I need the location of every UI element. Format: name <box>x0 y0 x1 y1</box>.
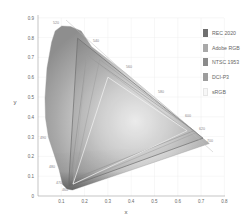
legend-item-dci-p3: DCI-P3 <box>203 70 240 85</box>
x-axis-label: x <box>125 209 128 215</box>
svg-text:470: 470 <box>56 181 62 185</box>
svg-text:0.5: 0.5 <box>151 199 158 204</box>
legend-item-adobe-rgb: Adobe RGB <box>203 41 240 56</box>
legend-item-srgb: sRGB <box>203 84 240 99</box>
svg-text:0.3: 0.3 <box>28 135 35 140</box>
legend: REC 2020 Adobe RGB NTSC 1953 DCI-P3 sRGB <box>203 26 240 99</box>
svg-text:0.7: 0.7 <box>198 199 205 204</box>
svg-text:0.3: 0.3 <box>105 199 112 204</box>
dci-p3-swatch <box>203 73 208 81</box>
chromaticity-diagram: 520 540 560 580 600 620 700 490 480 470 … <box>0 0 242 220</box>
svg-text:0.2: 0.2 <box>81 199 88 204</box>
svg-text:620: 620 <box>199 127 205 131</box>
srgb-swatch <box>203 88 208 96</box>
y-axis-ticks: 0 0.1 0.2 0.3 0.4 0.5 0.6 0.7 0.8 0.9 <box>28 16 35 200</box>
svg-text:700: 700 <box>207 139 213 143</box>
svg-text:0.4: 0.4 <box>28 115 35 120</box>
svg-text:540: 540 <box>93 39 99 43</box>
rec2020-swatch <box>203 29 208 37</box>
svg-text:0.6: 0.6 <box>175 199 182 204</box>
legend-item-rec2020: REC 2020 <box>203 26 240 41</box>
svg-text:0.4: 0.4 <box>128 199 135 204</box>
svg-text:0.5: 0.5 <box>28 95 35 100</box>
svg-text:0.8: 0.8 <box>28 36 35 41</box>
ntsc-1953-swatch <box>203 58 208 66</box>
legend-label: sRGB <box>212 89 226 95</box>
svg-text:0.6: 0.6 <box>28 75 35 80</box>
svg-text:0.8: 0.8 <box>221 199 228 204</box>
adobe-rgb-swatch <box>203 44 208 52</box>
svg-text:0.9: 0.9 <box>28 16 35 21</box>
x-axis-ticks: 0.1 0.2 0.3 0.4 0.5 0.6 0.7 0.8 <box>58 199 228 204</box>
svg-text:480: 480 <box>49 165 55 169</box>
svg-text:0.1: 0.1 <box>28 174 35 179</box>
legend-label: NTSC 1953 <box>212 59 239 65</box>
svg-text:0.1: 0.1 <box>58 199 65 204</box>
svg-text:460: 460 <box>62 188 68 192</box>
svg-text:490: 490 <box>40 136 46 140</box>
svg-text:520: 520 <box>53 21 59 25</box>
legend-label: DCI-P3 <box>212 74 229 80</box>
svg-text:560: 560 <box>126 65 132 69</box>
svg-text:580: 580 <box>158 90 164 94</box>
legend-label: Adobe RGB <box>212 45 240 51</box>
legend-label: REC 2020 <box>212 30 236 36</box>
legend-item-ntsc-1953: NTSC 1953 <box>203 55 240 70</box>
svg-text:0: 0 <box>31 194 34 199</box>
svg-text:0.2: 0.2 <box>28 154 35 159</box>
y-axis-label: y <box>14 99 17 105</box>
svg-text:600: 600 <box>185 114 191 118</box>
svg-text:0.7: 0.7 <box>28 55 35 60</box>
